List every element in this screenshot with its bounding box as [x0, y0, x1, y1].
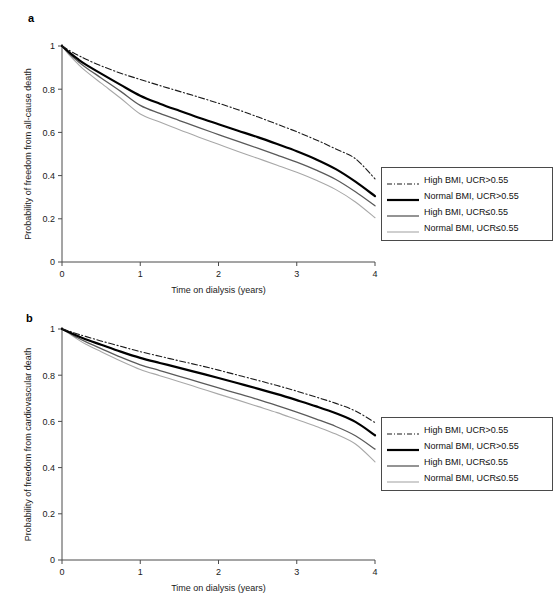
- svg-text:0.2: 0.2: [42, 509, 55, 519]
- svg-text:Probability of freedom from ca: Probability of freedom from cardiovascul…: [23, 348, 33, 542]
- svg-text:3: 3: [294, 567, 299, 577]
- panel-a-legend: High BMI, UCR>0.55Normal BMI, UCR>0.55Hi…: [381, 167, 553, 241]
- svg-text:1: 1: [50, 41, 55, 51]
- svg-text:4: 4: [372, 269, 377, 279]
- legend-item: High BMI, UCR>0.55: [387, 172, 546, 188]
- svg-text:0.8: 0.8: [42, 85, 55, 95]
- svg-text:0.4: 0.4: [42, 463, 55, 473]
- legend-label: High BMI, UCR>0.55: [424, 425, 508, 435]
- svg-text:2: 2: [216, 269, 221, 279]
- legend-line-swatch-dash-dot: [387, 175, 419, 185]
- panel-b-legend: High BMI, UCR>0.55Normal BMI, UCR>0.55Hi…: [381, 417, 553, 491]
- legend-line-swatch-solid: [387, 457, 419, 467]
- svg-text:Time on dialysis (years): Time on dialysis (years): [171, 583, 266, 593]
- svg-text:0: 0: [50, 555, 55, 565]
- legend-line-swatch-solid: [387, 223, 419, 233]
- legend-label: High BMI, UCR≤0.55: [424, 207, 508, 217]
- svg-text:1: 1: [138, 269, 143, 279]
- svg-text:0: 0: [59, 567, 64, 577]
- legend-line-swatch-dash-dot: [387, 425, 419, 435]
- legend-item: Normal BMI, UCR≤0.55: [387, 220, 546, 236]
- legend-line-swatch-solid: [387, 207, 419, 217]
- svg-text:0.6: 0.6: [42, 128, 55, 138]
- panel-a: a 0123400.20.40.60.81Time on dialysis (y…: [0, 0, 558, 300]
- svg-text:Time on dialysis (years): Time on dialysis (years): [171, 285, 266, 295]
- legend-line-swatch-solid: [387, 441, 419, 451]
- svg-text:1: 1: [50, 324, 55, 334]
- legend-line-swatch-solid: [387, 473, 419, 483]
- legend-item: High BMI, UCR≤0.55: [387, 204, 546, 220]
- svg-text:Probability of freedom from al: Probability of freedom from all-cause de…: [23, 68, 33, 240]
- svg-text:2: 2: [216, 567, 221, 577]
- legend-label: Normal BMI, UCR>0.55: [424, 191, 519, 201]
- legend-item: High BMI, UCR>0.55: [387, 422, 546, 438]
- panel-a-plot: 0123400.20.40.60.81Time on dialysis (yea…: [0, 0, 558, 300]
- legend-item: High BMI, UCR≤0.55: [387, 454, 546, 470]
- svg-text:3: 3: [294, 269, 299, 279]
- legend-line-swatch-solid: [387, 191, 419, 201]
- panel-b: b 0123400.20.40.60.81Time on dialysis (y…: [0, 300, 558, 606]
- legend-item: Normal BMI, UCR≤0.55: [387, 470, 546, 486]
- legend-label: High BMI, UCR>0.55: [424, 175, 508, 185]
- svg-text:4: 4: [372, 567, 377, 577]
- svg-text:0.6: 0.6: [42, 417, 55, 427]
- svg-text:0.4: 0.4: [42, 171, 55, 181]
- legend-item: Normal BMI, UCR>0.55: [387, 188, 546, 204]
- svg-text:0.2: 0.2: [42, 214, 55, 224]
- svg-text:0: 0: [50, 257, 55, 267]
- svg-text:0: 0: [59, 269, 64, 279]
- legend-label: Normal BMI, UCR≤0.55: [424, 223, 518, 233]
- legend-label: Normal BMI, UCR≤0.55: [424, 473, 518, 483]
- svg-text:0.8: 0.8: [42, 371, 55, 381]
- svg-text:1: 1: [138, 567, 143, 577]
- legend-label: Normal BMI, UCR>0.55: [424, 441, 519, 451]
- legend-item: Normal BMI, UCR>0.55: [387, 438, 546, 454]
- legend-label: High BMI, UCR≤0.55: [424, 457, 508, 467]
